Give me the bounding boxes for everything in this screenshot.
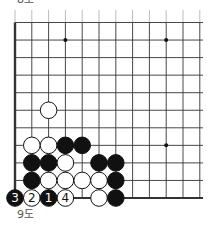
white-stone-icon (40, 137, 57, 154)
black-stone-icon (91, 155, 108, 172)
black-stone (40, 155, 57, 172)
white-stone-icon (24, 137, 41, 154)
white-stone (91, 172, 108, 189)
black-stone (108, 172, 125, 189)
black-stone-move-1: 1 (40, 190, 57, 207)
move-number-label: 1 (45, 191, 53, 205)
white-stone-icon (57, 155, 74, 172)
black-stone (74, 137, 91, 154)
black-stone-icon (24, 172, 41, 189)
black-stone-icon (108, 190, 125, 207)
star-point-icon (164, 143, 168, 147)
black-stone-icon (40, 155, 57, 172)
move-number-label: 3 (11, 191, 19, 205)
move-number-label: 2 (28, 191, 36, 205)
white-stone-icon (74, 172, 91, 189)
black-stone (108, 155, 125, 172)
black-stone-icon (108, 172, 125, 189)
white-stone (57, 155, 74, 172)
black-stone (91, 155, 108, 172)
white-stone (24, 137, 41, 154)
diagram-caption-bottom: 9도 (17, 209, 34, 220)
white-stone (91, 190, 108, 207)
white-stone (74, 172, 91, 189)
black-stone (24, 172, 41, 189)
white-stone (40, 137, 57, 154)
black-stone (57, 137, 74, 154)
white-stone-move-2: 2 (24, 190, 41, 207)
black-stone (24, 155, 41, 172)
black-stone-icon (108, 155, 125, 172)
white-stone-icon (91, 190, 108, 207)
white-stone (57, 172, 74, 189)
black-stone-move-3: 3 (7, 190, 24, 207)
black-stone-icon (57, 137, 74, 154)
go-board: 3214 (0, 0, 213, 234)
black-stone-icon (24, 155, 41, 172)
white-stone (40, 172, 57, 189)
white-stone-icon (40, 102, 57, 119)
star-point-icon (164, 38, 168, 42)
white-stone-icon (57, 172, 74, 189)
black-stone-icon (74, 137, 91, 154)
white-stone-move-4: 4 (57, 190, 74, 207)
black-stone (108, 190, 125, 207)
white-stone-icon (40, 172, 57, 189)
star-point-icon (63, 38, 67, 42)
white-stone (40, 102, 57, 119)
white-stone-icon (91, 172, 108, 189)
move-number-label: 4 (62, 191, 70, 205)
